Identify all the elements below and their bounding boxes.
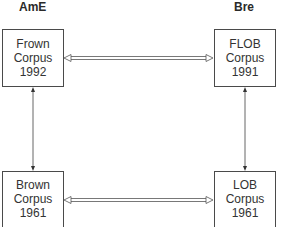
- flob-name: FLOB: [229, 37, 260, 51]
- flob-year: 1991: [232, 65, 259, 79]
- flob-type: Corpus: [226, 51, 265, 65]
- frown-year: 1992: [20, 65, 47, 79]
- frown-corpus-box: Frown Corpus 1992: [2, 29, 64, 87]
- brown-name: Brown: [16, 178, 50, 192]
- brown-year: 1961: [20, 206, 47, 220]
- lob-year: 1961: [232, 206, 259, 220]
- lob-corpus-box: LOB Corpus 1961: [214, 171, 276, 227]
- frown-type: Corpus: [14, 51, 53, 65]
- frown-name: Frown: [16, 37, 49, 51]
- lob-name: LOB: [233, 178, 257, 192]
- double-arrow-frown-flob: [64, 55, 213, 62]
- vertical-arrow-flob-lob: [243, 87, 247, 171]
- vertical-arrow-frown-brown: [31, 87, 35, 171]
- double-arrow-brown-lob: [64, 197, 213, 204]
- brown-type: Corpus: [14, 192, 53, 206]
- brown-corpus-box: Brown Corpus 1961: [2, 171, 64, 227]
- flob-corpus-box: FLOB Corpus 1991: [214, 29, 276, 87]
- lob-type: Corpus: [226, 192, 265, 206]
